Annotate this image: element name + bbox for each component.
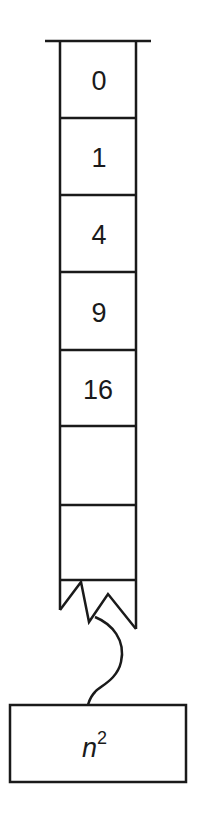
torn-edge-icon bbox=[60, 582, 136, 629]
generator-connector bbox=[88, 617, 122, 705]
stream-cell-2: 4 bbox=[91, 220, 106, 250]
stream-cell-1: 1 bbox=[91, 143, 106, 173]
generator-exponent: 2 bbox=[97, 728, 107, 748]
stream-cell-0: 0 bbox=[91, 66, 106, 96]
stream-cell-4: 16 bbox=[83, 375, 113, 405]
cell-dividers bbox=[60, 118, 136, 580]
stream-cell-3: 9 bbox=[91, 298, 106, 328]
generator-base: n bbox=[82, 733, 97, 763]
stream-diagram: 0 1 4 9 16 n2 bbox=[0, 0, 200, 827]
